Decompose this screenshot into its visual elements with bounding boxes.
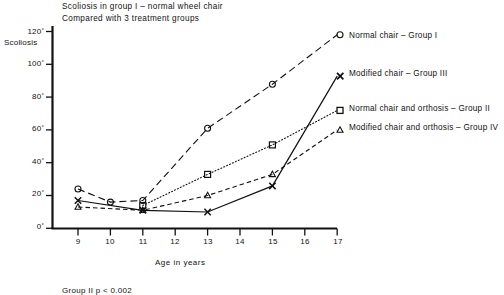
legend-item-group-i[interactable]: Normal chair – Group I xyxy=(347,31,437,40)
legend-item-group-ii[interactable]: Normal chair and orthosis – Group II xyxy=(347,104,490,113)
footnote-significance: Group II p < 0.002 xyxy=(62,286,132,295)
legend-marker-group-iii xyxy=(337,73,343,79)
legend-marker-group-ii xyxy=(337,107,343,113)
legend-label-group-iii: Modified chair – Group III xyxy=(349,69,447,78)
series-markers-group-iv xyxy=(75,171,275,212)
legend-marker-group-i xyxy=(337,32,343,38)
legend-marker-group-iv xyxy=(337,127,343,132)
legend-item-group-iv[interactable]: Modified chair and orthosis – Group IV xyxy=(347,123,498,132)
legend-label-group-iv: Modified chair and orthosis – Group IV xyxy=(349,123,498,132)
series-markers-group-ii xyxy=(140,142,276,209)
series-markers-group-iii xyxy=(75,183,276,216)
legend-label-group-ii: Normal chair and orthosis – Group II xyxy=(349,104,490,113)
legend-label-group-i: Normal chair – Group I xyxy=(349,31,437,40)
legend-item-group-iii[interactable]: Modified chair – Group III xyxy=(347,69,447,78)
series-markers-group-i xyxy=(75,81,275,205)
